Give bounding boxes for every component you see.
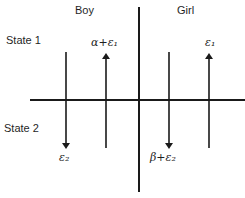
label-alpha-plus-epsilon1: α+ε₁ [91, 36, 118, 49]
column-label-girl: Girl [177, 4, 194, 16]
row-label-state2: State 2 [4, 122, 39, 134]
column-label-boy: Boy [75, 4, 94, 16]
label-epsilon2-boy: ε₂ [59, 151, 69, 164]
label-epsilon1-girl: ε₁ [205, 36, 215, 49]
label-beta-plus-epsilon2: β+ε₂ [150, 151, 176, 164]
payoff-diagram [0, 0, 245, 198]
row-label-state1: State 1 [6, 34, 41, 46]
